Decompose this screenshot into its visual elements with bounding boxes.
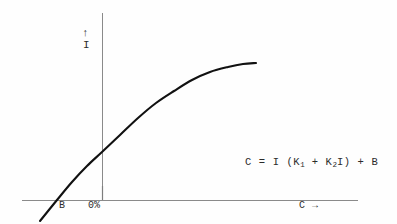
equation-term-b: B [371, 156, 378, 168]
response-curve-figure: ↑ I B 0% C → C = I (K1 + K2I) + B [0, 0, 397, 224]
equation-spacer-2 [266, 156, 273, 168]
x-tick-label-zero-percent: 0% [88, 201, 100, 211]
plot-canvas [0, 0, 397, 224]
equation-term-i2: I) [337, 156, 351, 168]
y-axis-arrow-icon: ↑ [82, 28, 89, 39]
equation-spacer-4 [305, 156, 312, 168]
equation-term-i: I [273, 156, 280, 168]
equation-plus-outer: + [358, 156, 365, 168]
equation-open-paren-k: (K [286, 156, 300, 168]
equation-equals: = [259, 156, 266, 168]
x-axis-label: C → [299, 201, 319, 211]
y-axis-label: I [83, 40, 90, 51]
equation-spacer-1 [252, 156, 259, 168]
equation-spacer-5 [351, 156, 358, 168]
x-tick-label-b: B [59, 201, 65, 211]
equation-plus-inner-k: + K [312, 156, 333, 168]
equation-annotation: C = I (K1 + K2I) + B [245, 157, 378, 170]
equation-lhs: C [245, 156, 252, 168]
response-curve-path [40, 63, 256, 221]
